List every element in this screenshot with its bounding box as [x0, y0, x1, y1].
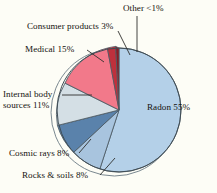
pie-chart-figure: Other <1% Consumer products 3% Medical 1… — [0, 0, 217, 193]
pie-label-radon: Radon 55% — [147, 102, 190, 113]
pie-label-cosmic-rays: Cosmic rays 8% — [9, 148, 69, 159]
pie-label-internal-body-sources-line2: sources 11% — [3, 100, 49, 110]
pie-label-consumer-products: Consumer products 3% — [27, 21, 113, 32]
pie-label-internal-body-sources-line1: Internal body — [3, 89, 52, 99]
pie-label-rocks-soils: Rocks & soils 8% — [22, 170, 88, 181]
pie-label-medical: Medical 15% — [25, 44, 74, 55]
pie-label-other: Other <1% — [123, 3, 164, 14]
pie-label-internal-body-sources: Internal body sources 11% — [3, 89, 65, 110]
